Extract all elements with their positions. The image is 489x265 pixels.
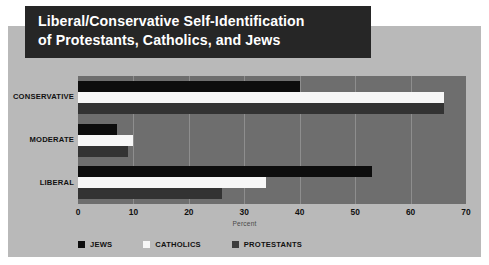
bar-jews-conservative [78, 81, 300, 92]
bar-catholics-liberal [78, 177, 266, 188]
legend-label-protestants: PROTESTANTS [244, 240, 302, 249]
x-tick-10: 10 [129, 207, 138, 217]
legend-label-catholics: CATHOLICS [155, 240, 201, 249]
bar-catholics-conservative [78, 92, 444, 103]
x-tick-60: 60 [406, 207, 415, 217]
bar-protestants-liberal [78, 188, 222, 199]
legend-item-jews: JEWS [78, 240, 112, 249]
x-axis-label: Percent [0, 220, 489, 227]
chart-title: Liberal/Conservative Self-Identification… [38, 12, 364, 50]
bar-jews-moderate [78, 124, 117, 135]
bar-catholics-moderate [78, 135, 133, 146]
category-axis: CONSERVATIVEMODERATELIBERAL [0, 76, 74, 204]
chart-legend: JEWSCATHOLICSPROTESTANTS [78, 238, 302, 250]
legend-swatch-jews [78, 241, 85, 248]
bar-jews-liberal [78, 166, 372, 177]
x-tick-0: 0 [76, 207, 81, 217]
legend-swatch-protestants [232, 241, 239, 248]
bar-protestants-moderate [78, 146, 128, 157]
category-label-liberal: LIBERAL [0, 178, 74, 187]
x-tick-20: 20 [184, 207, 193, 217]
x-axis-ticks: 010203040506070 [78, 207, 466, 221]
legend-label-jews: JEWS [90, 240, 112, 249]
bar-protestants-conservative [78, 103, 444, 114]
chart-figure: Liberal/Conservative Self-Identification… [0, 0, 489, 265]
x-tick-50: 50 [350, 207, 359, 217]
legend-item-protestants: PROTESTANTS [232, 240, 302, 249]
x-tick-30: 30 [240, 207, 249, 217]
category-label-moderate: MODERATE [0, 135, 74, 144]
plot-area [78, 76, 466, 204]
legend-item-catholics: CATHOLICS [143, 240, 201, 249]
legend-swatch-catholics [143, 241, 150, 248]
x-tick-70: 70 [461, 207, 470, 217]
title-banner: Liberal/Conservative Self-Identification… [25, 6, 371, 58]
x-tick-40: 40 [295, 207, 304, 217]
category-label-conservative: CONSERVATIVE [0, 92, 74, 101]
